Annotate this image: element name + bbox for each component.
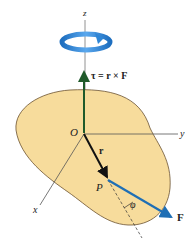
x-axis-label: x xyxy=(33,205,37,215)
y-axis-label: y xyxy=(180,129,184,139)
torque-diagram xyxy=(0,0,195,250)
point-label: P xyxy=(96,182,103,193)
z-axis-label: z xyxy=(83,9,87,18)
rigid-body xyxy=(16,90,170,225)
position-vector-label: r xyxy=(99,146,103,156)
torque-equation: τ = r × F xyxy=(91,71,127,81)
angle-label: φ xyxy=(130,200,136,210)
origin-label: O xyxy=(70,127,78,138)
force-label: F xyxy=(177,212,184,223)
